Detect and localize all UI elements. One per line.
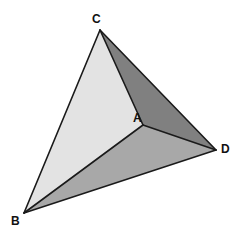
vertex-label-b: B (11, 215, 20, 227)
tetrahedron-diagram (0, 0, 244, 240)
vertex-label-a: A (133, 112, 142, 124)
vertex-label-c: C (92, 13, 101, 25)
figure-canvas: C A D B (0, 0, 244, 240)
vertex-label-d: D (221, 143, 230, 155)
